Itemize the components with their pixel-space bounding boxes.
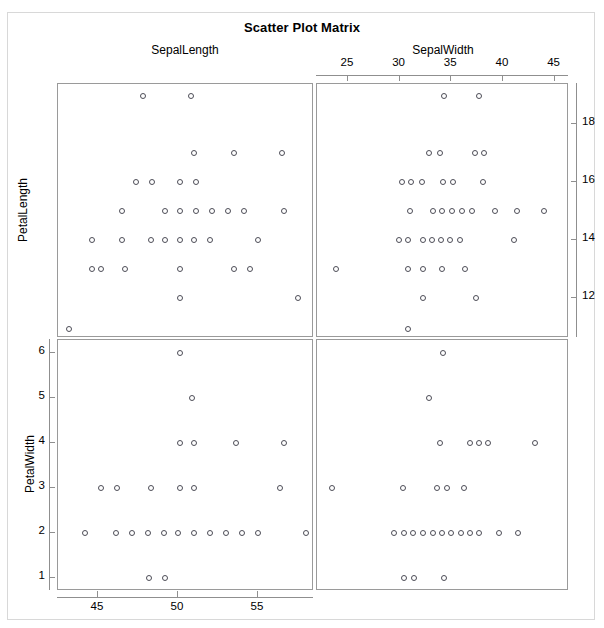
- top-axis-tick: [399, 75, 400, 81]
- data-point: [193, 208, 199, 214]
- data-point: [281, 440, 287, 446]
- left-axis-tick-label: 1: [11, 569, 45, 581]
- data-point: [469, 208, 475, 214]
- data-point: [440, 350, 446, 356]
- data-point: [162, 208, 168, 214]
- data-point: [281, 208, 287, 214]
- top-axis-tick: [502, 75, 503, 81]
- row-label-petallength: PetalLength: [16, 160, 30, 260]
- data-point: [148, 485, 154, 491]
- data-point: [448, 530, 454, 536]
- data-point: [247, 266, 253, 272]
- top-axis-tick: [347, 75, 348, 81]
- data-point: [405, 266, 411, 272]
- data-point: [177, 237, 183, 243]
- data-point: [161, 530, 167, 536]
- top-axis-tick-label: 25: [327, 56, 367, 68]
- data-point: [476, 440, 482, 446]
- top-axis-tick-label: 40: [482, 56, 522, 68]
- data-point: [399, 179, 405, 185]
- scatter-plot-matrix-root: Scatter Plot Matrix SepalLength SepalWid…: [0, 0, 604, 628]
- data-point: [439, 208, 445, 214]
- data-point: [405, 326, 411, 332]
- top-axis-tick: [554, 75, 555, 81]
- data-point: [129, 530, 135, 536]
- data-point: [420, 237, 426, 243]
- data-point: [439, 530, 445, 536]
- data-point: [420, 266, 426, 272]
- left-axis-tick: [49, 487, 55, 488]
- data-point: [162, 575, 168, 581]
- data-point: [444, 485, 450, 491]
- top-axis-line: [316, 75, 568, 76]
- data-point: [66, 326, 72, 332]
- bottom-axis-tick: [257, 591, 258, 597]
- data-point: [333, 266, 339, 272]
- data-point: [396, 237, 402, 243]
- data-point: [476, 530, 482, 536]
- data-point: [405, 237, 411, 243]
- right-axis-tick-label: 12: [582, 289, 604, 301]
- top-axis-tick-label: 30: [379, 56, 419, 68]
- bottom-axis-line: [57, 597, 313, 598]
- data-point: [233, 440, 239, 446]
- data-point: [541, 208, 547, 214]
- data-point: [149, 179, 155, 185]
- data-point: [177, 266, 183, 272]
- data-point: [177, 179, 183, 185]
- data-point: [188, 93, 194, 99]
- data-point: [481, 150, 487, 156]
- data-point: [122, 266, 128, 272]
- data-point: [231, 266, 237, 272]
- left-axis-tick: [49, 577, 55, 578]
- bottom-axis-tick: [177, 591, 178, 597]
- data-point: [191, 237, 197, 243]
- data-point: [447, 237, 453, 243]
- bottom-axis-tick-label: 50: [157, 600, 197, 612]
- data-point: [177, 440, 183, 446]
- data-point: [411, 575, 417, 581]
- data-point: [114, 485, 120, 491]
- data-point: [255, 237, 261, 243]
- data-point: [191, 530, 197, 536]
- left-axis-line: [49, 339, 50, 590]
- data-point: [429, 237, 435, 243]
- left-axis-tick: [49, 442, 55, 443]
- data-point: [82, 530, 88, 536]
- data-point: [113, 530, 119, 536]
- data-point: [133, 179, 139, 185]
- data-point: [119, 237, 125, 243]
- column-header-sepalwidth: SepalWidth: [378, 43, 508, 57]
- data-point: [437, 150, 443, 156]
- data-point: [450, 179, 456, 185]
- right-axis-tick-label: 18: [582, 115, 604, 127]
- data-point: [277, 485, 283, 491]
- data-point: [255, 530, 261, 536]
- data-point: [434, 485, 440, 491]
- data-point: [426, 395, 432, 401]
- panel-petalwidth-vs-sepallength[interactable]: [57, 339, 313, 590]
- left-axis-tick: [49, 352, 55, 353]
- data-point: [241, 208, 247, 214]
- data-point: [207, 237, 213, 243]
- data-point: [514, 208, 520, 214]
- data-point: [89, 237, 95, 243]
- data-point: [426, 150, 432, 156]
- panel-petallength-vs-sepallength[interactable]: [57, 83, 313, 337]
- panel-petalwidth-vs-sepalwidth[interactable]: [316, 339, 568, 590]
- data-point: [473, 295, 479, 301]
- data-point: [440, 179, 446, 185]
- data-point: [441, 93, 447, 99]
- data-point: [89, 266, 95, 272]
- data-point: [515, 530, 521, 536]
- data-point: [462, 266, 468, 272]
- right-axis-tick: [571, 181, 577, 182]
- panel-petallength-vs-sepalwidth[interactable]: [316, 83, 568, 337]
- data-point: [401, 530, 407, 536]
- left-axis-tick-label: 3: [11, 479, 45, 491]
- data-point: [193, 179, 199, 185]
- top-axis-tick-label: 45: [534, 56, 574, 68]
- data-point: [400, 485, 406, 491]
- data-point: [175, 530, 181, 536]
- data-point: [98, 485, 104, 491]
